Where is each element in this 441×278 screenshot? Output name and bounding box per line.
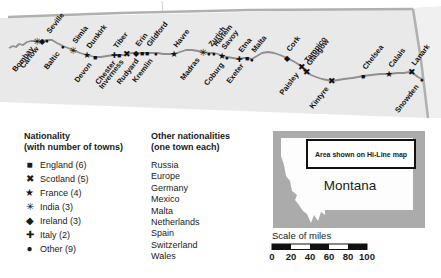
legend-item-label: Other (9) xyxy=(40,244,76,254)
nationality-legend-title-line2: (with number of towns) xyxy=(24,142,148,153)
town-marker-icon: ● xyxy=(61,43,65,50)
legend-item: ◆Ireland (3) xyxy=(24,214,148,228)
nationality-legend-title-line1: Nationality xyxy=(24,131,148,142)
scale-label: Scale of miles xyxy=(272,230,331,241)
scale-bar-segment xyxy=(348,244,367,250)
town-marker-icon: ● xyxy=(225,54,229,61)
town-marker-icon: ● xyxy=(250,56,254,63)
scale-bar-segment xyxy=(272,244,291,250)
town-marker-icon: ✳ xyxy=(69,45,77,56)
square-icon: ■ xyxy=(24,160,35,170)
legend-item: ■England (6) xyxy=(24,158,148,172)
other-nationality-item: Russia xyxy=(151,160,265,171)
other-nationalities-title-line2: (one town each) xyxy=(151,142,265,153)
legend-item-label: England (6) xyxy=(40,160,87,170)
legend-item-label: Ireland (3) xyxy=(40,216,81,226)
town-marker-icon: ● xyxy=(420,76,424,83)
town-marker-icon: ✳ xyxy=(199,47,207,58)
other-nationality-item: Germany xyxy=(151,183,265,194)
legend-item-label: India (3) xyxy=(40,202,73,212)
circle-icon: ● xyxy=(24,244,35,254)
town-marker-icon: ■ xyxy=(145,50,149,57)
scale-tick-label: 80 xyxy=(343,251,354,262)
scale-svg: Scale of miles 020406080100 xyxy=(269,228,441,266)
town-marker-icon: ● xyxy=(207,50,211,57)
legend-item-label: Scotland (5) xyxy=(40,174,89,184)
town-marker-icon: ★ xyxy=(170,49,178,59)
other-nationality-item: Mexico xyxy=(151,194,265,205)
diamond-icon: ◆ xyxy=(24,216,35,226)
montana-state-label: Montana xyxy=(324,178,377,193)
montana-inset-svg: Area shown on Hi-Line map Montana xyxy=(273,131,425,228)
scale-bar xyxy=(272,244,367,250)
town-marker-icon: ✖ xyxy=(408,67,416,77)
other-nationality-item: Europe xyxy=(151,171,265,182)
scale-bar-segment xyxy=(310,244,329,250)
hi-line-map-page: ✳Bombay◆Carlow●Seville●Baltic✳Simla★Dunk… xyxy=(0,0,441,278)
legend-item: ✖Scotland (5) xyxy=(24,172,148,186)
other-nationality-item: Spain xyxy=(151,228,265,239)
other-nationalities-list: RussiaEuropeGermanyMexicoMaltaNetherland… xyxy=(151,160,265,263)
other-nationalities-title-line1: Other nationalities xyxy=(151,131,265,142)
scale-tick-label: 100 xyxy=(359,251,375,262)
plus-icon: ✚ xyxy=(24,230,35,240)
other-nationality-item: Switzerland xyxy=(151,240,265,251)
town-marker-icon: ■ xyxy=(361,73,365,80)
town-marker-icon: ★ xyxy=(385,69,393,79)
scale-tick-label: 40 xyxy=(305,251,316,262)
town-marker-icon: ● xyxy=(45,37,49,44)
scale-tick-label: 0 xyxy=(269,251,274,262)
legend-item: ✚Italy (2) xyxy=(24,228,148,242)
scale-bar-segment xyxy=(291,244,310,250)
legend-item: ✳India (3) xyxy=(24,200,148,214)
town-marker-icon: ● xyxy=(154,50,158,57)
legend-item: ●Other (9) xyxy=(24,242,148,256)
nationality-legend: Nationality (with number of towns) ■Engl… xyxy=(24,131,148,256)
scale-tick-label: 20 xyxy=(286,251,297,262)
other-nationality-item: Malta xyxy=(151,206,265,217)
town-marker-icon: ✖ xyxy=(123,49,131,59)
asterisk-icon: ✳ xyxy=(24,202,35,212)
town-marker-icon: ◆ xyxy=(284,54,291,63)
nationality-legend-list: ■England (6)✖Scotland (5)★France (4)✳Ind… xyxy=(24,158,148,256)
town-marker-icon: ✖ xyxy=(303,67,311,77)
other-nationality-item: Wales xyxy=(151,251,265,262)
scale-numbers: 020406080100 xyxy=(269,251,375,262)
scale-bar-segment xyxy=(329,244,348,250)
town-marker-icon: ✖ xyxy=(328,76,336,86)
town-marker-icon: ● xyxy=(212,50,216,57)
montana-inset: Area shown on Hi-Line map Montana xyxy=(273,131,425,232)
legend-item: ★France (4) xyxy=(24,186,148,200)
other-nationality-item: Netherlands xyxy=(151,217,265,228)
town-marker-icon: ★ xyxy=(83,50,91,60)
cross-icon: ✖ xyxy=(24,174,35,184)
legend-item-label: France (4) xyxy=(40,188,82,198)
scale-of-miles: Scale of miles 020406080100 xyxy=(269,228,441,270)
hiline-map-svg: ✳Bombay◆Carlow●Seville●Baltic✳Simla★Dunk… xyxy=(0,0,441,124)
scale-tick-label: 60 xyxy=(324,251,335,262)
town-marker-icon: ■ xyxy=(93,54,97,61)
other-nationalities-legend: Other nationalities (one town each) Russ… xyxy=(151,131,265,263)
town-marker-icon: ■ xyxy=(140,50,144,57)
town-marker-icon: ■ xyxy=(245,55,249,62)
legend-item-label: Italy (2) xyxy=(40,230,70,240)
star-icon: ★ xyxy=(24,188,35,198)
area-shown-label: Area shown on Hi-Line map xyxy=(315,151,407,159)
